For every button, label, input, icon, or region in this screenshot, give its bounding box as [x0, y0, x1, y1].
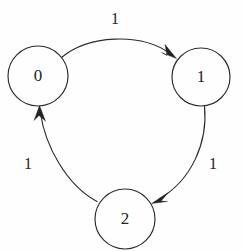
edge-2-to-0-path	[41, 113, 98, 202]
node-2[interactable]: 2	[95, 189, 155, 249]
edge-2-to-0-arrowhead	[34, 106, 46, 122]
edge-0-to-1-arrowhead	[162, 45, 177, 59]
node-1[interactable]: 1	[172, 48, 230, 106]
edge-2-to-0[interactable]: 1	[24, 106, 97, 202]
node-0-label: 0	[34, 66, 43, 85]
edge-0-to-1[interactable]: 1	[62, 10, 177, 59]
node-0[interactable]: 0	[8, 46, 68, 106]
edge-1-to-2-label: 1	[209, 155, 217, 172]
diagram-canvas: 1 1 1 0 1 2	[0, 0, 245, 251]
edge-2-to-0-label: 1	[24, 155, 32, 172]
edge-1-to-2-arrowhead	[152, 193, 169, 204]
edge-1-to-2-path	[159, 106, 205, 199]
state-transition-graph: 1 1 1 0 1 2	[0, 0, 245, 251]
edge-0-to-1-path	[62, 39, 171, 57]
node-1-label: 1	[197, 67, 206, 86]
edge-1-to-2[interactable]: 1	[152, 106, 218, 204]
node-2-label: 2	[121, 209, 130, 228]
edge-0-to-1-label: 1	[111, 10, 119, 27]
